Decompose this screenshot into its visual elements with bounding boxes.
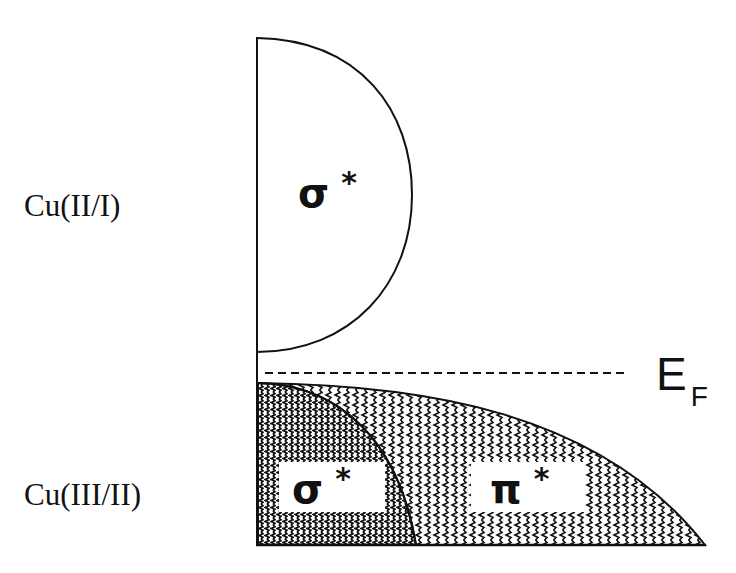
band-diagram: Cu(II/I) Cu(III/II) σ* π* σ* EF [0,0,736,573]
lower-level-label: Cu(III/II) [24,477,141,512]
pi-star-label-box [471,462,585,512]
upper-level-label: Cu(II/I) [24,188,120,223]
fermi-level-label: EF [656,348,708,412]
sigma-star-upper-band [257,38,412,352]
